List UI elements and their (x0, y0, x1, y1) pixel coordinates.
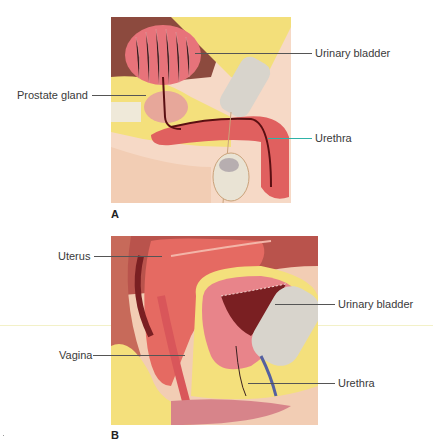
panel-b-illustration (111, 236, 318, 425)
label-prostate-gland: Prostate gland (17, 89, 88, 101)
stray-mark (3, 435, 4, 436)
label-urinary-bladder-b: Urinary bladder (338, 298, 413, 310)
leader-urinary-bladder-b (275, 304, 335, 305)
label-urethra-b: Urethra (338, 377, 375, 389)
leader-vagina (93, 355, 185, 356)
leader-urethra-b (248, 383, 335, 384)
label-urinary-bladder-a: Urinary bladder (315, 47, 390, 59)
panel-letter-a: A (111, 208, 119, 220)
panel-letter-b: B (111, 429, 119, 441)
panel-a-illustration (111, 17, 291, 203)
female-pelvis-illustration (111, 236, 318, 425)
leader-urethra-a (268, 138, 312, 139)
label-urethra-a: Urethra (315, 132, 352, 144)
leader-uterus (94, 256, 162, 257)
leader-prostate-gland (92, 95, 146, 96)
leader-urinary-bladder-a (195, 53, 312, 54)
male-pelvis-illustration (111, 17, 291, 203)
label-vagina: Vagina (59, 349, 92, 361)
label-uterus: Uterus (58, 250, 90, 262)
